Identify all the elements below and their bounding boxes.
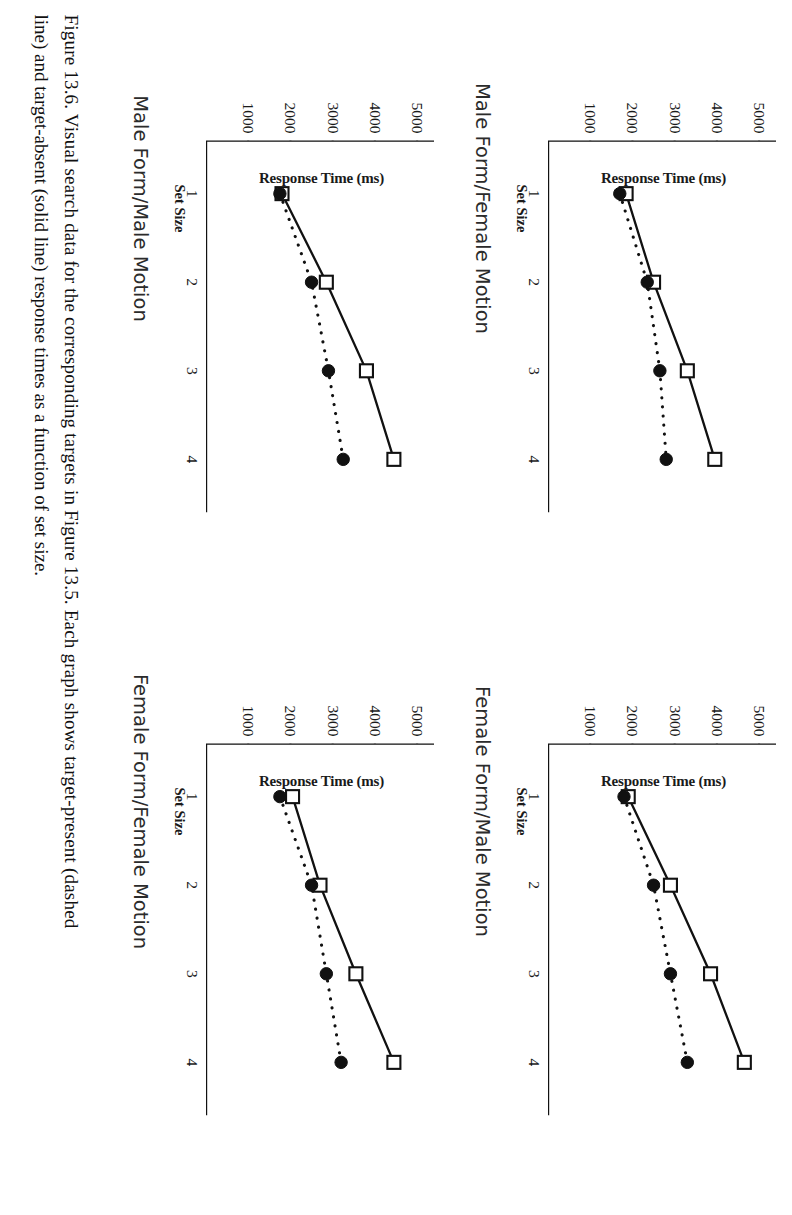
y-axis-tick-label: 2000 [282, 705, 300, 736]
figure-stage: Response Time (ms) 100020003000400050001… [0, 0, 792, 1215]
y-axis-tick-label: 2000 [624, 102, 642, 133]
figure-caption: Figure 13.6. Visual search data for the … [26, 14, 86, 1204]
x-axis-tick-label: 4 [525, 455, 543, 463]
panel-title: Male Form/Female Motion [471, 0, 494, 434]
chart-panel-male-form-male-motion: Response Time (ms) 100020003000400050001… [110, 22, 440, 582]
x-axis-title: Set Size [513, 625, 530, 997]
plot-svg-0 [548, 140, 776, 512]
panel-title: Female Form/Male Motion [471, 585, 494, 1037]
y-axis-tick-label: 1000 [240, 102, 258, 133]
x-axis-title: Set Size [513, 22, 530, 394]
chart-panel-female-form-female-motion: Response Time (ms) 100020003000400050001… [110, 625, 440, 1185]
y-axis-tick-label: 3000 [666, 705, 684, 736]
figure-panels: Response Time (ms) 100020003000400050001… [92, 0, 792, 1215]
panel-title: Female Form/Female Motion [129, 585, 152, 1037]
x-axis-tick-label: 4 [525, 1058, 543, 1066]
y-axis-tick-label: 4000 [708, 102, 726, 133]
y-axis-tick-label: 1000 [240, 705, 258, 736]
y-axis-title: Response Time (ms) [564, 170, 764, 187]
y-axis-tick-label: 3000 [324, 102, 342, 133]
plot-area: Response Time (ms) 100020003000400050001… [206, 140, 434, 512]
y-axis-tick-label: 5000 [408, 705, 426, 736]
y-axis-title: Response Time (ms) [222, 773, 422, 790]
y-axis-tick-label: 2000 [624, 705, 642, 736]
plot-svg-3 [206, 743, 434, 1115]
x-axis-tick-label: 4 [183, 455, 201, 463]
y-axis-tick-label: 1000 [582, 705, 600, 736]
plot-area: Response Time (ms) 100020003000400050001… [548, 743, 776, 1115]
plot-svg-1 [206, 140, 434, 512]
y-axis-tick-label: 5000 [750, 102, 768, 133]
y-axis-tick-label: 4000 [366, 705, 384, 736]
panel-title: Male Form/Male Motion [129, 0, 152, 434]
y-axis-tick-label: 1000 [582, 102, 600, 133]
plot-area: Response Time (ms) 100020003000400050001… [206, 743, 434, 1115]
x-axis-title: Set Size [171, 22, 188, 394]
chart-panel-female-form-male-motion: Response Time (ms) 100020003000400050001… [452, 625, 782, 1185]
y-axis-tick-label: 4000 [366, 102, 384, 133]
plot-svg-2 [548, 743, 776, 1115]
y-axis-tick-label: 5000 [408, 102, 426, 133]
y-axis-title: Response Time (ms) [564, 773, 764, 790]
y-axis-title: Response Time (ms) [222, 170, 422, 187]
y-axis-tick-label: 3000 [324, 705, 342, 736]
y-axis-tick-label: 5000 [750, 705, 768, 736]
y-axis-tick-label: 2000 [282, 102, 300, 133]
plot-area: Response Time (ms) 100020003000400050001… [548, 140, 776, 512]
caption-line-1: Figure 13.6. Visual search data for the … [61, 14, 82, 928]
x-axis-title: Set Size [171, 625, 188, 997]
caption-line-2: line) and target-absent (solid line) res… [26, 14, 56, 1204]
y-axis-tick-label: 3000 [666, 102, 684, 133]
y-axis-tick-label: 4000 [708, 705, 726, 736]
x-axis-tick-label: 4 [183, 1058, 201, 1066]
chart-panel-male-form-female-motion: Response Time (ms) 100020003000400050001… [452, 22, 782, 582]
